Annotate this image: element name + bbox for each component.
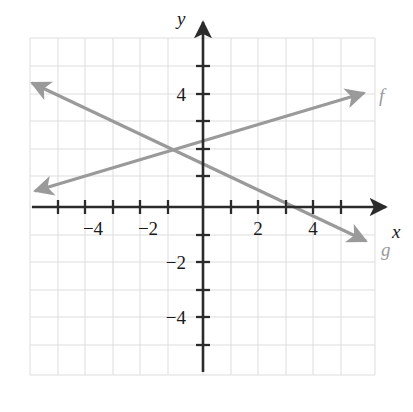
x-tick-label-neg4: −4 [76,219,110,238]
y-axis-label: y [177,9,185,28]
y-tick-label-neg4: −4 [148,308,186,327]
x-tick-label-neg2: −2 [131,219,165,238]
x-tick-label-4: 4 [299,219,327,238]
function-label-f: f [379,86,384,105]
y-tick-label-neg2: −2 [148,253,186,272]
y-tick-label-4: 4 [158,85,186,104]
graph-figure: y x f g −4 −2 2 4 4 −2 −4 [0,0,413,412]
function-label-g: g [381,240,391,259]
x-axis-label: x [392,222,400,241]
x-tick-label-2: 2 [244,219,272,238]
coordinate-plane [0,0,413,412]
